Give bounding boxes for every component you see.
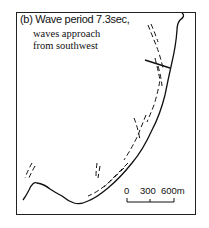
- wave-crest: [28, 166, 35, 180]
- wave-crest: [88, 163, 128, 196]
- scale-label-300: 300: [140, 185, 156, 196]
- wave-crest: [158, 66, 162, 86]
- scale-bar: [127, 198, 174, 202]
- scale-label-0: 0: [124, 185, 129, 196]
- wave-crest: [98, 166, 100, 178]
- scale-label-600m: 600m: [161, 185, 185, 196]
- wave-crest: [151, 24, 158, 42]
- wave-crest: [134, 118, 140, 140]
- coastline: [23, 13, 184, 204]
- wave-crest: [25, 163, 32, 178]
- wave-crest: [96, 163, 97, 177]
